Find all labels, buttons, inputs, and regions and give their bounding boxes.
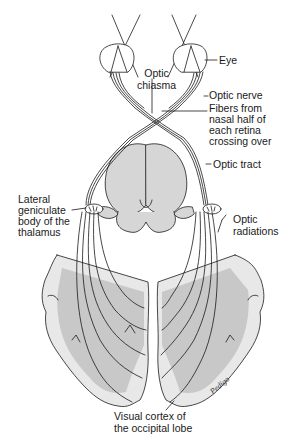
right-eye — [173, 44, 207, 72]
left-eye — [100, 44, 134, 72]
label-optic-nerve: Optic nerve — [209, 90, 263, 102]
brain-core — [98, 144, 194, 233]
label-visual-cortex: Visual cortex of the occipital lobe — [114, 411, 192, 434]
label-optic-radiations: Optic radiations — [233, 214, 279, 237]
label-nasal-fibers: Fibers from nasal half of each retina cr… — [209, 103, 271, 147]
label-lateral-geniculate: Lateral geniculate body of the thalamus — [18, 194, 70, 238]
label-eye: Eye — [219, 55, 237, 67]
label-optic-tract: Optic tract — [213, 159, 261, 171]
label-optic-chiasma: Optic chiasma — [137, 68, 176, 91]
visual-pathway-diagram: Eye Optic chiasma Optic nerve Fibers fro… — [0, 0, 292, 437]
